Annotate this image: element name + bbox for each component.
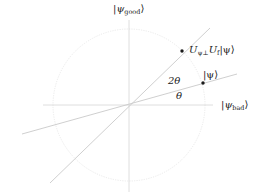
rotated-line	[50, 28, 210, 183]
rotated-point-label: Uψ⊥Uf|ψ⟩	[189, 45, 235, 57]
two-theta-label: 2θ	[168, 76, 180, 86]
rotated-point	[180, 49, 183, 52]
psi-bad-label: |ψbad⟩	[221, 100, 248, 112]
psi-good-label: |ψgood⟩	[113, 4, 144, 16]
theta-label: θ	[176, 91, 182, 101]
psi-point-label: |ψ⟩	[203, 70, 218, 80]
psi-point	[201, 81, 204, 84]
diagram-canvas	[0, 0, 259, 192]
